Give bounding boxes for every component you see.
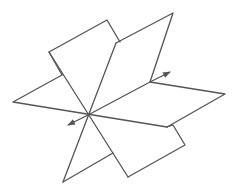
plane-a-lower-edge	[128, 125, 185, 177]
horizontal-plane-right	[88, 82, 225, 127]
plane-b-lower-edge	[63, 153, 113, 182]
plane-b-diagonal	[63, 43, 116, 182]
plane-a-upper-edge	[49, 20, 120, 75]
horizontal-plane-left	[13, 75, 167, 127]
plane-b-upper-edge	[116, 13, 173, 82]
intersecting-planes-diagram	[0, 0, 234, 190]
